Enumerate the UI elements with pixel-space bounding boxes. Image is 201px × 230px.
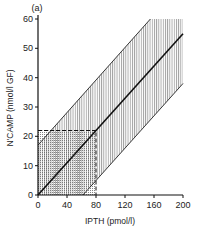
svg-text:40: 40 [23,73,33,83]
svg-text:50: 50 [23,43,33,53]
x-axis-label: IPTH (pmol/l) [85,216,135,226]
svg-text:160: 160 [146,200,161,210]
regression-line [38,34,183,195]
svg-text:20: 20 [23,131,33,141]
y-tick-labels: 0 10 20 30 40 50 60 [23,14,33,200]
svg-text:30: 30 [23,102,33,112]
svg-text:80: 80 [91,200,101,210]
svg-text:200: 200 [175,200,190,210]
chart: 0 10 20 30 40 50 60 0 40 80 120 160 200 … [0,0,201,230]
svg-text:40: 40 [62,200,72,210]
svg-text:60: 60 [23,14,33,24]
svg-text:0: 0 [28,190,33,200]
x-tick-labels: 0 40 80 120 160 200 [35,200,190,210]
panel-label: (a) [32,3,43,13]
y-axis-label: N'CAMP (nmol/l GF) [5,69,15,146]
svg-text:10: 10 [23,161,33,171]
svg-text:120: 120 [117,200,132,210]
svg-text:0: 0 [35,200,40,210]
